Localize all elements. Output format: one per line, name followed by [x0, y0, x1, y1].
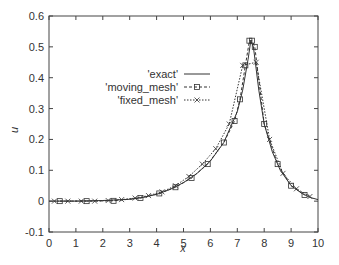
series-line-0	[49, 41, 318, 201]
y-tick-label: -0.1	[25, 226, 44, 238]
x-tick-label: 10	[312, 237, 324, 249]
x-tick-label: 0	[46, 237, 52, 249]
x-tick-label: 9	[288, 237, 294, 249]
x-marker	[213, 146, 218, 151]
data-series	[49, 38, 318, 203]
x-marker	[254, 60, 259, 65]
y-tick-label: 0	[38, 195, 44, 207]
y-tick-label: 0.4	[29, 72, 44, 84]
series-line-1	[60, 41, 305, 201]
y-tick-label: 0.3	[29, 103, 44, 115]
legend-label-moving: 'moving_mesh'	[105, 81, 178, 93]
legend-label-fixed: 'fixed_mesh'	[118, 94, 178, 106]
y-tick-label: 0.6	[29, 10, 44, 22]
y-tick-label: 0.2	[29, 133, 44, 145]
legend: 'exact' 'moving_mesh' 'fixed_mesh'	[105, 68, 210, 106]
y-axis-label: u	[8, 127, 20, 133]
x-tick-label: 3	[127, 237, 133, 249]
x-tick-label: 7	[234, 237, 240, 249]
x-marker	[281, 171, 286, 176]
axis-ticks: 012345678910-0.100.10.20.30.40.50.6	[25, 10, 324, 249]
y-tick-label: 0.5	[29, 41, 44, 53]
x-tick-label: 1	[73, 237, 79, 249]
series-line-2	[54, 62, 310, 201]
x-marker-icon	[195, 98, 200, 103]
y-tick-label: 0.1	[29, 164, 44, 176]
x-tick-label: 2	[100, 237, 106, 249]
x-axis-label: x	[179, 242, 186, 254]
x-tick-label: 4	[154, 237, 160, 249]
x-marker	[200, 162, 205, 167]
line-chart: 012345678910-0.100.10.20.30.40.50.6 'exa…	[0, 0, 339, 265]
x-tick-label: 6	[207, 237, 213, 249]
legend-label-exact: 'exact'	[148, 68, 179, 80]
x-tick-label: 8	[261, 237, 267, 249]
